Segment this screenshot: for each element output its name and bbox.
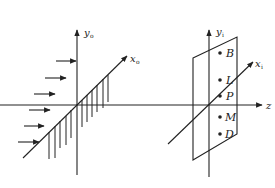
point-b-label: B <box>225 47 234 60</box>
point-m-label: M <box>224 111 237 124</box>
incident-arrows <box>18 61 76 142</box>
point-l <box>218 78 222 82</box>
y-o-label: y <box>83 27 90 38</box>
x-i-subscript: i <box>261 63 263 70</box>
point-d-label: D <box>224 128 234 141</box>
point-p-label: P <box>225 90 234 103</box>
x-i-axis <box>168 62 253 144</box>
z-axis-label: z <box>265 100 272 111</box>
point-p <box>218 94 222 98</box>
optics-coordinate-diagram: z y o x <box>0 0 275 188</box>
y-i-label: y <box>215 26 222 37</box>
left-frame: y o x o <box>18 27 140 175</box>
point-d <box>218 132 222 136</box>
hatch-lines <box>49 75 108 159</box>
x-o-axis <box>23 56 127 158</box>
x-o-subscript: o <box>136 58 140 65</box>
right-frame: B L P M D y i x i <box>168 26 263 177</box>
y-i-subscript: i <box>222 31 224 38</box>
point-b <box>218 51 222 55</box>
y-o-subscript: o <box>90 32 94 39</box>
point-m <box>218 115 222 119</box>
point-l-label: L <box>225 74 233 87</box>
